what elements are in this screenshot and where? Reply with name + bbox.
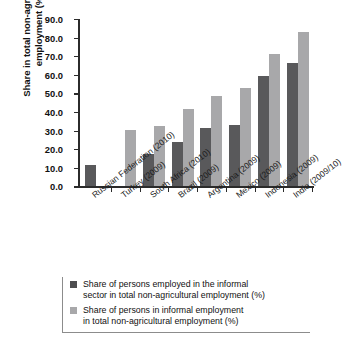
y-axis-line — [78, 19, 80, 188]
y-tick-label: 90.0 — [27, 14, 63, 25]
dark-swatch-icon — [70, 281, 77, 288]
y-tick — [74, 112, 78, 113]
chart-legend: Share of persons employed in the informa… — [62, 277, 310, 333]
legend-label-line2: sector in total non-agricultural employm… — [83, 290, 265, 300]
y-tick — [74, 56, 78, 57]
y-tick-label: 60.0 — [27, 69, 63, 80]
y-tick-label: 70.0 — [27, 51, 63, 62]
y-tick — [74, 186, 78, 187]
legend-label-line1: Share of persons employed in the informa… — [83, 279, 248, 289]
legend-label-line1: Share of persons in informal employment — [83, 305, 243, 315]
y-tick-label: 30.0 — [27, 125, 63, 136]
y-tick-label: 80.0 — [27, 32, 63, 43]
y-tick — [74, 149, 78, 150]
legend-item: Share of persons employed in the informa… — [70, 279, 310, 300]
y-tick — [74, 168, 78, 169]
y-tick — [74, 19, 78, 20]
y-tick — [74, 131, 78, 132]
y-tick-label: 20.0 — [27, 144, 63, 155]
y-tick — [74, 75, 78, 76]
y-tick-label: 40.0 — [27, 107, 63, 118]
y-tick — [74, 38, 78, 39]
light-swatch-icon — [70, 307, 77, 314]
legend-label-line2: in total non-agricultural employment (%) — [83, 316, 238, 326]
y-tick-label: 50.0 — [27, 88, 63, 99]
y-tick — [74, 93, 78, 94]
legend-item-label: Share of persons employed in the informa… — [83, 279, 265, 300]
x-axis-labels: Russian Federation (2010)Turkey (2009)So… — [0, 190, 325, 268]
legend-item-label: Share of persons in informal employment … — [83, 305, 243, 326]
bar — [85, 165, 96, 186]
y-tick-label: 10.0 — [27, 162, 63, 173]
legend-item: Share of persons in informal employment … — [70, 305, 310, 326]
